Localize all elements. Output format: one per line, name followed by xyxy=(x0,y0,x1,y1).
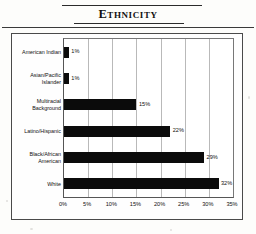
category-label: Black/African American xyxy=(13,151,61,164)
x-tick-label: 20% xyxy=(154,200,165,208)
bar xyxy=(64,178,219,189)
bar-row: Latino/Hispanic22% xyxy=(64,126,233,137)
bar xyxy=(64,47,69,58)
title-rule-full xyxy=(2,27,254,28)
bar-value-label: 29% xyxy=(207,155,218,161)
category-label: Multiracial Background xyxy=(13,98,61,111)
x-tick-label: 25% xyxy=(178,200,189,208)
bar xyxy=(64,152,204,163)
bar xyxy=(64,99,136,110)
scan-speck xyxy=(248,96,250,99)
title-rule-top xyxy=(62,5,202,6)
bar-row: Black/African American29% xyxy=(64,152,233,163)
bar-row: American Indian1% xyxy=(64,47,233,58)
bar xyxy=(64,73,69,84)
bar-row: Multiracial Background15% xyxy=(64,99,233,110)
chart-frame: American Indian1%Asian/Pacific Islander1… xyxy=(11,33,243,220)
category-label: American Indian xyxy=(13,49,61,55)
x-tick-label: 30% xyxy=(202,200,213,208)
x-tick-label: 35% xyxy=(226,200,237,208)
category-label: Asian/Pacific Islander xyxy=(13,72,61,85)
bar-value-label: 1% xyxy=(71,49,79,55)
x-axis-tick-labels: 0%5%10%15%20%25%30%35% xyxy=(63,200,234,212)
x-tick-label: 10% xyxy=(106,200,117,208)
scan-speck xyxy=(30,228,33,230)
bar-row: White32% xyxy=(64,178,233,189)
title-rule-under xyxy=(74,23,184,24)
scan-speck xyxy=(6,200,8,202)
category-label: White xyxy=(13,181,61,187)
scan-speck xyxy=(170,229,172,231)
page-title: Ethnicity xyxy=(0,7,256,21)
bar-row: Asian/Pacific Islander1% xyxy=(64,73,233,84)
bar-value-label: 1% xyxy=(71,76,79,82)
title-block: Ethnicity xyxy=(0,0,256,30)
bar-value-label: 32% xyxy=(221,181,232,187)
category-label: Latino/Hispanic xyxy=(13,128,61,134)
x-tick-label: 15% xyxy=(130,200,141,208)
x-tick-label: 5% xyxy=(83,200,91,208)
bar-value-label: 22% xyxy=(173,128,184,134)
plot-area: American Indian1%Asian/Pacific Islander1… xyxy=(63,38,234,198)
x-tick-label: 0% xyxy=(59,200,67,208)
bar-rows: American Indian1%Asian/Pacific Islander1… xyxy=(64,39,233,197)
chart-page: Ethnicity American Indian1%Asian/Pacific… xyxy=(0,0,256,234)
bar xyxy=(64,126,170,137)
bar-value-label: 15% xyxy=(139,102,150,108)
